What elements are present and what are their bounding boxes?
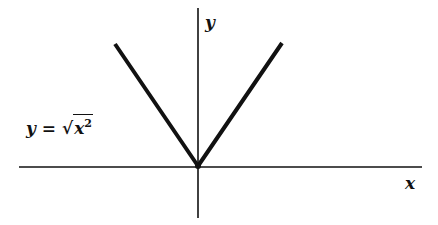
origin-point bbox=[195, 163, 201, 169]
radicand: x2 bbox=[73, 114, 93, 137]
equation-lhs: y bbox=[26, 118, 36, 138]
equation-equals: = bbox=[42, 118, 56, 138]
radicand-var: x bbox=[74, 118, 84, 138]
x-axis-label: x bbox=[405, 173, 415, 193]
y-axis-label: y bbox=[205, 12, 215, 32]
equation-label: y = √x2 bbox=[26, 114, 93, 138]
radicand-exponent: 2 bbox=[84, 117, 92, 130]
sqrt-icon: √ bbox=[62, 118, 73, 138]
graph-canvas bbox=[0, 0, 438, 225]
